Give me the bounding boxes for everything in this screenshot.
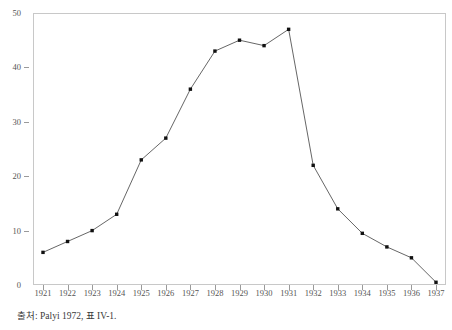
- data-point-marker: [66, 240, 69, 243]
- data-point-marker: [41, 251, 44, 254]
- x-tick-label: 1935: [378, 289, 395, 298]
- x-tick-label: 1932: [305, 289, 322, 298]
- y-tick-label: 0: [17, 281, 21, 290]
- chart-figure: 01020304050 1921192219231924192519261927…: [0, 0, 452, 330]
- x-tick-label: 1929: [231, 289, 248, 298]
- data-point-marker: [238, 39, 241, 42]
- y-tick-label: 50: [13, 9, 22, 18]
- data-point-marker: [434, 281, 437, 284]
- y-tick-label: 20: [13, 172, 22, 181]
- x-tick-label: 1922: [59, 289, 76, 298]
- x-tick-label: 1933: [329, 289, 346, 298]
- data-point-marker: [90, 229, 93, 232]
- x-tick-label: 1927: [182, 289, 199, 298]
- data-point-marker: [410, 256, 413, 259]
- data-point-marker: [336, 207, 339, 210]
- y-tick-mark: [24, 231, 29, 232]
- x-tick-label: 1928: [206, 289, 223, 298]
- x-tick-label: 1926: [157, 289, 174, 298]
- x-tick-label: 1931: [280, 289, 297, 298]
- series-line: [43, 29, 436, 282]
- y-axis: 01020304050: [0, 13, 29, 285]
- data-point-marker: [213, 49, 216, 52]
- data-point-marker: [115, 213, 118, 216]
- y-tick-mark: [24, 122, 29, 123]
- source-note: 출처: Palyi 1972, 표 IV-1.: [17, 311, 116, 322]
- x-tick-label: 1937: [428, 289, 445, 298]
- data-point-marker: [189, 87, 192, 90]
- data-point-marker: [311, 164, 314, 167]
- y-tick-label: 30: [13, 118, 22, 127]
- x-tick-label: 1934: [354, 289, 371, 298]
- data-point-marker: [287, 28, 290, 31]
- data-point-marker: [164, 136, 167, 139]
- data-point-marker: [140, 158, 143, 161]
- line-series: [33, 13, 446, 285]
- data-point-marker: [262, 44, 265, 47]
- x-tick-label: 1923: [84, 289, 101, 298]
- x-tick-label: 1936: [403, 289, 420, 298]
- y-tick-label: 40: [13, 63, 22, 72]
- x-tick-label: 1925: [133, 289, 150, 298]
- y-tick-label: 10: [13, 227, 22, 236]
- x-tick-label: 1930: [256, 289, 273, 298]
- data-point-marker: [361, 232, 364, 235]
- data-point-marker: [385, 245, 388, 248]
- y-tick-mark: [24, 67, 29, 68]
- plot-area: [33, 13, 446, 285]
- x-tick-label: 1921: [35, 289, 52, 298]
- x-axis: 1921192219231924192519261927192819291930…: [33, 289, 446, 305]
- y-tick-mark: [24, 176, 29, 177]
- x-tick-label: 1924: [108, 289, 125, 298]
